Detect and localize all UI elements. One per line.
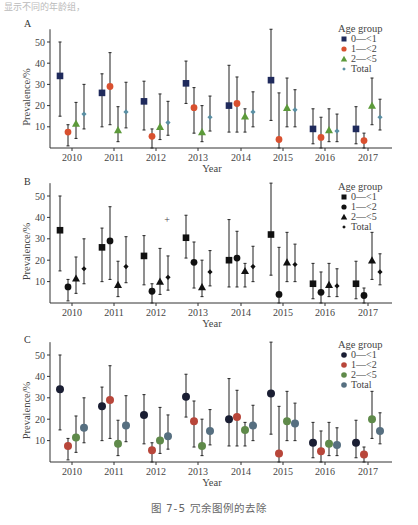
y-tick-label: 40 xyxy=(35,212,45,223)
series-2 xyxy=(72,391,376,455)
y-tick-label: 20 xyxy=(35,414,45,425)
x-tick-label: 2014 xyxy=(231,152,251,163)
x-tick-label: 2016 xyxy=(315,152,335,163)
series-2 xyxy=(72,78,376,142)
y-tick-label: 30 xyxy=(35,233,45,244)
series-3 xyxy=(81,82,382,141)
x-tick-label: 2012 xyxy=(146,307,166,318)
x-tick-label: 2014 xyxy=(231,307,251,318)
panel-c: C1020304050Prevalence/%20102011201220132… xyxy=(21,334,392,488)
figure-caption: 图 7-5 冗余图例的去除 xyxy=(0,500,418,515)
y-tick-label: 50 xyxy=(35,191,45,202)
legend: Age group0—<11—<22—<5Total xyxy=(338,23,383,74)
y-tick-label: 30 xyxy=(35,79,45,90)
series-2 xyxy=(72,232,376,296)
x-tick-label: 2010 xyxy=(62,152,82,163)
y-tick-label: 40 xyxy=(35,371,45,382)
panel-label: A xyxy=(24,18,32,29)
panel-a: A1020304050Prevalence/%20102011201220132… xyxy=(21,18,392,174)
series-0 xyxy=(57,183,360,299)
panel-label: C xyxy=(24,334,31,345)
x-tick-label: 2015 xyxy=(273,466,293,477)
legend: Age group0—<11—<22—<5Total xyxy=(338,339,383,390)
y-tick-label: 40 xyxy=(35,58,45,69)
legend-item: Total xyxy=(351,63,372,74)
x-tick-label: 2013 xyxy=(188,307,208,318)
y-tick-label: 20 xyxy=(35,100,45,111)
x-tick-label: 2017 xyxy=(358,152,378,163)
x-tick-label: 2011 xyxy=(104,466,124,477)
x-tick-label: 2015 xyxy=(273,152,293,163)
figure-svg: A1020304050Prevalence/%20102011201220132… xyxy=(0,0,418,525)
y-tick-label: 10 xyxy=(35,435,45,446)
legend-item: Total xyxy=(351,221,372,232)
x-tick-label: 2015 xyxy=(273,307,293,318)
y-axis-title: Prevalence/% xyxy=(21,68,32,126)
panel-b: B1020304050Prevalence/%20102011201220132… xyxy=(21,176,392,329)
y-tick-label: 30 xyxy=(35,392,45,403)
x-tick-label: 2016 xyxy=(315,307,335,318)
x-tick-label: 2011 xyxy=(104,152,124,163)
x-tick-label: 2016 xyxy=(315,466,335,477)
series-1 xyxy=(65,207,368,303)
y-tick-label: 10 xyxy=(35,276,45,287)
y-tick-label: 50 xyxy=(35,37,45,48)
series-1 xyxy=(65,53,368,148)
x-tick-label: 2012 xyxy=(146,466,166,477)
x-tick-label: 2017 xyxy=(358,307,378,318)
series-3 xyxy=(80,396,384,456)
y-axis-title: Prevalence/% xyxy=(21,222,32,280)
x-tick-label: 2017 xyxy=(358,466,378,477)
y-tick-label: 10 xyxy=(35,121,45,132)
stray-annotation: + xyxy=(164,214,170,225)
series-1 xyxy=(64,366,368,462)
x-tick-label: 2011 xyxy=(104,307,124,318)
x-tick-label: 2013 xyxy=(188,466,208,477)
series-0 xyxy=(57,29,360,143)
y-tick-label: 20 xyxy=(35,255,45,266)
series-3 xyxy=(81,237,382,297)
legend-item: Total xyxy=(351,379,372,390)
y-axis-title: Prevalence/% xyxy=(21,381,32,439)
x-axis-title: Year xyxy=(202,163,222,174)
series-0 xyxy=(56,342,360,458)
panel-label: B xyxy=(24,176,31,187)
x-tick-label: 2010 xyxy=(62,307,82,318)
y-tick-label: 50 xyxy=(35,350,45,361)
legend: Age group0—<11—<22—<5Total xyxy=(338,181,383,232)
x-tick-label: 2013 xyxy=(188,152,208,163)
x-axis-title: Year xyxy=(202,318,222,329)
x-tick-label: 2010 xyxy=(62,466,82,477)
x-tick-label: 2012 xyxy=(146,152,166,163)
x-axis-title: Year xyxy=(202,477,222,488)
x-tick-label: 2014 xyxy=(231,466,251,477)
